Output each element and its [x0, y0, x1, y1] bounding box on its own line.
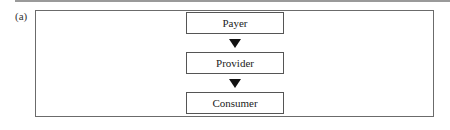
- node-label: Payer: [222, 17, 247, 29]
- top-rule: [15, 0, 450, 2]
- node-consumer: Consumer: [186, 92, 284, 114]
- arrow-down-icon: [229, 39, 241, 48]
- node-provider: Provider: [186, 52, 284, 74]
- node-payer: Payer: [186, 12, 284, 34]
- node-label: Provider: [216, 57, 254, 69]
- node-label: Consumer: [212, 97, 257, 109]
- arrow-down-icon: [229, 79, 241, 88]
- panel-label: (a): [15, 10, 27, 22]
